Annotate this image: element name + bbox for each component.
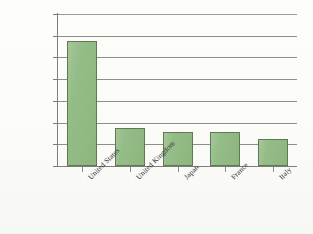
bar bbox=[67, 41, 97, 166]
bar-shading bbox=[68, 42, 96, 165]
gridline bbox=[58, 36, 297, 37]
x-axis-tick-label-text: Japan bbox=[182, 175, 188, 181]
x-axis-tick-mark bbox=[225, 167, 226, 172]
bar-shading bbox=[211, 133, 239, 165]
x-axis-tick-mark bbox=[273, 167, 274, 172]
bar bbox=[115, 128, 145, 166]
bar bbox=[258, 139, 288, 166]
x-axis-tick-label-text: United Kingdom bbox=[134, 175, 140, 181]
bar-shading bbox=[116, 129, 144, 165]
bar bbox=[210, 132, 240, 166]
x-axis-tick-mark bbox=[178, 167, 179, 172]
gridline bbox=[58, 14, 297, 15]
x-axis-tick-label-text: Italy bbox=[277, 175, 283, 181]
chart-figure: 0200,000400,000600,000800,0001,000,0001,… bbox=[0, 0, 313, 234]
bar-shading bbox=[259, 140, 287, 165]
x-axis-tick-mark bbox=[82, 167, 83, 172]
x-axis-tick-label-text: France bbox=[229, 175, 235, 181]
x-axis-tick-label-text: United States bbox=[86, 175, 92, 181]
plot-area bbox=[58, 14, 297, 166]
x-axis-tick-mark bbox=[130, 167, 131, 172]
